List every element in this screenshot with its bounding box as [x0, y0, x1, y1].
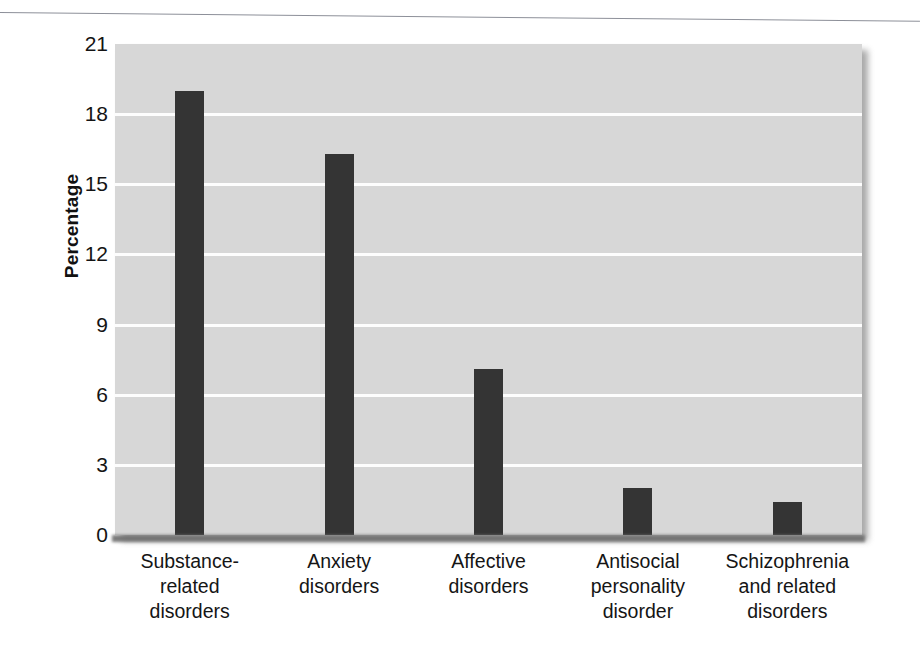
x-axis-label-2: Anxietydisorders — [264, 549, 413, 649]
y-axis-tick-0: 0 — [62, 524, 108, 545]
x-axis-label-line: disorder — [565, 599, 710, 624]
bar-3 — [474, 369, 503, 535]
y-axis-tick-18: 18 — [62, 103, 108, 124]
x-axis-label-5: Schizophreniaand relateddisorders — [713, 549, 862, 649]
gridline-18 — [115, 113, 862, 116]
x-axis-label-4: Antisocialpersonalitydisorder — [563, 549, 712, 649]
x-axis-label-1: Substance-relateddisorders — [115, 549, 264, 649]
page-top-rule — [0, 12, 920, 22]
gridline-12 — [115, 253, 862, 256]
bar-4 — [623, 488, 652, 535]
gridline-9 — [115, 324, 862, 327]
x-axis-label-line: related — [117, 574, 262, 599]
x-axis-label-line: Affective — [416, 549, 561, 574]
bar-chart-figure: Percentage 036912151821 Substance-relate… — [0, 0, 920, 654]
bar-2 — [325, 154, 354, 535]
x-axis-label-line: Substance- — [117, 549, 262, 574]
x-axis-label-line: disorders — [266, 574, 411, 599]
bar-1 — [175, 91, 204, 535]
y-axis-tick-6: 6 — [62, 384, 108, 405]
bar-5 — [773, 502, 802, 535]
x-axis-line — [112, 535, 865, 542]
y-axis-tick-9: 9 — [62, 314, 108, 335]
gridline-15 — [115, 183, 862, 186]
x-axis-label-line: personality — [565, 574, 710, 599]
x-axis-label-line: Anxiety — [266, 549, 411, 574]
y-axis-tick-labels: 036912151821 — [62, 44, 108, 535]
x-axis-label-line: disorders — [715, 599, 860, 624]
x-axis-label-line: Schizophrenia — [715, 549, 860, 574]
x-axis-label-line: disorders — [117, 599, 262, 624]
y-axis-tick-15: 15 — [62, 173, 108, 194]
x-axis-label-line: disorders — [416, 574, 561, 599]
y-axis-tick-21: 21 — [62, 33, 108, 54]
x-axis-label-line: and related — [715, 574, 860, 599]
plot-area — [115, 44, 862, 535]
x-axis-label-3: Affectivedisorders — [414, 549, 563, 649]
y-axis-tick-12: 12 — [62, 243, 108, 264]
x-axis-category-labels: Substance-relateddisordersAnxietydisorde… — [115, 549, 862, 649]
x-axis-label-line: Antisocial — [565, 549, 710, 574]
y-axis-tick-3: 3 — [62, 454, 108, 475]
